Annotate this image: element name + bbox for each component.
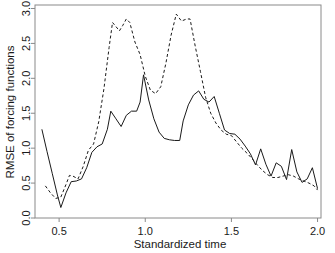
x-axis-ticks: 0.51.01.52.0	[51, 218, 325, 237]
x-axis-label: Standardized time	[134, 238, 227, 250]
plot-frame	[35, 5, 321, 218]
y-tick-label: 0.0	[20, 210, 32, 225]
chart-figure: 0.51.01.52.0 0.00.51.01.52.02.53.0 Stand…	[0, 0, 335, 253]
chart-plot-area: 0.51.01.52.0 0.00.51.01.52.02.53.0 Stand…	[0, 0, 335, 253]
y-tick-label: 0.5	[20, 175, 32, 190]
series-solid-curve	[42, 75, 318, 208]
x-tick-label: 1.5	[224, 225, 239, 237]
data-series-group	[42, 14, 318, 207]
series-dashed-curve	[45, 14, 317, 198]
x-tick-label: 2.0	[310, 225, 325, 237]
x-tick-label: 0.5	[51, 225, 66, 237]
y-tick-label: 2.5	[20, 36, 32, 51]
y-tick-label: 2.0	[20, 71, 32, 86]
y-axis-label: RMSE of forcing functions	[4, 45, 16, 178]
x-tick-label: 1.0	[138, 225, 153, 237]
y-axis-ticks: 0.00.51.01.52.02.53.0	[20, 1, 35, 226]
y-tick-label: 1.5	[20, 106, 32, 121]
y-tick-label: 3.0	[20, 1, 32, 16]
y-tick-label: 1.0	[20, 141, 32, 156]
